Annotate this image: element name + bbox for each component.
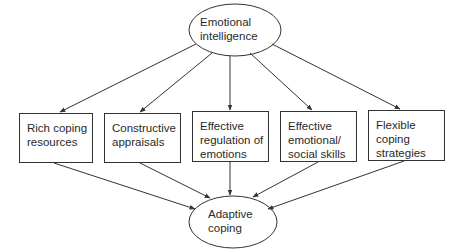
node-line: emotions [200, 147, 268, 161]
edge-ei-to-social [250, 53, 312, 110]
edge-constructive-to-adaptive [140, 163, 210, 198]
node-line: appraisals [112, 135, 180, 149]
node-line: strategies [376, 146, 444, 160]
node-effective-regulation-of-emotions: Effective regulation of emotions [192, 111, 269, 162]
node-line: Constructive [112, 121, 180, 135]
node-line: emotional/ [288, 133, 356, 147]
edge-ei-to-constructive [140, 53, 212, 112]
node-line: Effective [200, 119, 268, 133]
bottom-node-line-1: Adaptive [208, 207, 253, 221]
edge-rich-to-adaptive [54, 163, 195, 209]
node-line: coping [376, 132, 444, 146]
node-line: Rich coping [27, 121, 92, 135]
node-line: social skills [288, 147, 356, 161]
node-line: Flexible [376, 118, 444, 132]
top-node-line-1: Emotional [200, 15, 258, 29]
node-constructive-appraisals: Constructive appraisals [104, 113, 181, 163]
node-line: resources [27, 135, 92, 149]
bottom-node-line-2: coping [208, 221, 253, 235]
top-node-label: Emotional intelligence [200, 15, 258, 43]
edge-flexible-to-adaptive [268, 161, 404, 209]
bottom-node-label: Adaptive coping [208, 207, 253, 235]
edge-ei-to-flexible [272, 44, 400, 109]
edge-ei-to-rich [60, 44, 196, 112]
edge-social-to-adaptive [253, 162, 318, 197]
node-line: regulation of [200, 133, 268, 147]
node-effective-emotional-social-skills: Effective emotional/ social skills [280, 111, 357, 162]
top-node-line-2: intelligence [200, 29, 258, 43]
node-line: Effective [288, 119, 356, 133]
node-rich-coping-resources: Rich coping resources [19, 113, 93, 163]
node-flexible-coping-strategies: Flexible coping strategies [368, 110, 445, 161]
